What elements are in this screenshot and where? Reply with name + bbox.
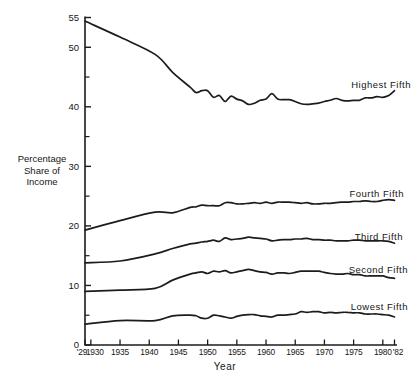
x-tick-label-1930: 1930 <box>86 347 104 357</box>
axes <box>85 17 397 346</box>
line-third-fifth <box>85 237 395 263</box>
y-tick-label-50: 50 <box>68 42 79 53</box>
line-fourth-fifth <box>85 200 395 230</box>
line-highest-fifth <box>85 21 395 104</box>
x-tick-label-1945: 1945 <box>170 347 188 357</box>
x-tick-label-1970: 1970 <box>316 347 334 357</box>
x-tick-label-1950: 1950 <box>199 347 217 357</box>
x-tick-label-1975: 1975 <box>345 347 363 357</box>
x-tick-label-1935: 1935 <box>111 347 129 357</box>
x-axis-title: Year <box>203 361 247 372</box>
y-tick-label-10: 10 <box>68 280 79 291</box>
x-tick-label-1982: '82 <box>393 347 404 357</box>
income-share-by-quintile-figure: 0102030405055'29193019351940194519501955… <box>0 0 418 381</box>
y-tick-label-55: 55 <box>68 12 79 23</box>
x-tick-label-1940: 1940 <box>140 347 158 357</box>
x-tick-label-1960: 1960 <box>257 347 275 357</box>
x-tick-label-1980: 1980 <box>374 347 392 357</box>
y-tick-label-20: 20 <box>68 220 79 231</box>
x-tick-label-1955: 1955 <box>228 347 246 357</box>
y-tick-label-40: 40 <box>68 101 79 112</box>
y-axis-title-line-2: Share of <box>8 165 76 177</box>
series-label-highest-fifth: Highest Fifth <box>351 79 411 90</box>
series-label-second-fifth: Second Fifth <box>349 264 408 275</box>
y-axis-title-line-1: Percentage <box>8 153 76 165</box>
y-axis-title: Percentage Share of Income <box>8 153 76 188</box>
x-tick-label-1965: 1965 <box>286 347 304 357</box>
line-lowest-fifth <box>85 312 395 325</box>
series-label-third-fifth: Third Fifth <box>355 231 403 242</box>
series-label-lowest-fifth: Lowest Fifth <box>351 301 408 312</box>
y-axis-title-line-3: Income <box>8 176 76 188</box>
series-label-fourth-fifth: Fourth Fifth <box>349 188 404 199</box>
